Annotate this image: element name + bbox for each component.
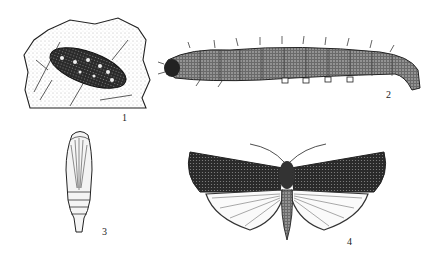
figure-canvas <box>0 0 445 254</box>
panel-label-1: 1 <box>122 112 127 123</box>
panel-2-caterpillar <box>158 36 420 90</box>
panel-4-adult-moth <box>188 144 385 240</box>
panel-label-4: 4 <box>347 236 352 247</box>
panel-1-leaf-larva <box>24 18 150 108</box>
panel-label-3: 3 <box>102 226 107 237</box>
panel-label-2: 2 <box>386 89 391 100</box>
panel-3-pupa <box>66 132 92 233</box>
